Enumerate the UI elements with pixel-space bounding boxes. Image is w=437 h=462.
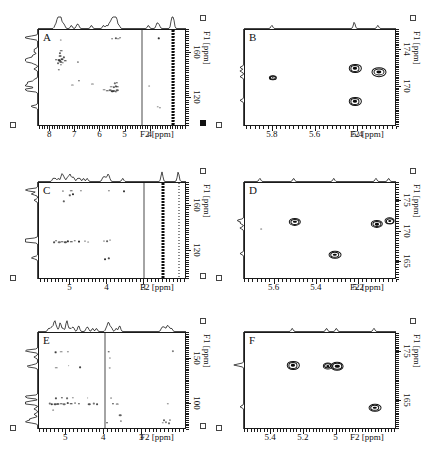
axis-tick <box>396 374 399 375</box>
axis-tick <box>396 383 399 384</box>
axis-tick <box>396 337 399 338</box>
axis-tick <box>257 429 258 432</box>
x-tick-label: 5.4 <box>265 433 276 442</box>
axis-tick <box>396 345 399 346</box>
x-tick-label: 5 <box>333 433 338 442</box>
axis-tick <box>396 405 399 406</box>
contour-peak <box>373 406 377 409</box>
axis-tick <box>391 429 392 432</box>
panel-label-D: D <box>249 185 257 196</box>
axis-tick <box>396 395 399 396</box>
panel-label-E: E <box>43 335 50 346</box>
axis-tick <box>388 429 389 432</box>
axis-tick <box>277 429 278 432</box>
axis-tick <box>396 378 399 379</box>
axis-tick <box>396 422 399 423</box>
panel-label-A: A <box>43 32 51 43</box>
corner-marker <box>216 425 222 431</box>
axis-tick <box>396 358 399 359</box>
nmr-figure: A87654F2 [ppm]120160F1 [ppm]B5.85.65.4F2… <box>0 0 437 462</box>
axis-tick <box>280 429 281 432</box>
axis-tick <box>385 429 386 432</box>
x-axis-title-F: F2 [ppm] <box>350 433 384 442</box>
axis-tick <box>396 354 399 355</box>
axis-tick <box>396 407 399 408</box>
axis-tick <box>396 366 399 367</box>
axis-tick <box>394 429 395 432</box>
axis-tick <box>396 411 399 412</box>
plot-area-F[interactable] <box>244 332 396 429</box>
panel-label-C: C <box>43 185 50 196</box>
axis-tick <box>396 360 399 361</box>
axis-tick <box>396 414 399 415</box>
axis-tick <box>396 424 399 425</box>
projection-trace-f1 <box>231 332 244 429</box>
axis-tick <box>396 370 399 371</box>
axis-tick <box>396 356 399 357</box>
axis-tick <box>313 429 314 432</box>
y-tick-label: 175 <box>402 345 411 359</box>
axis-tick <box>396 381 399 382</box>
axis-tick <box>396 428 399 429</box>
axis-tick <box>396 362 399 363</box>
axis-tick <box>309 429 310 432</box>
axis-tick-major <box>396 400 401 401</box>
axis-tick <box>396 418 399 419</box>
axis-tick <box>396 391 399 392</box>
y-tick-label: 165 <box>402 393 411 407</box>
panel-label-B: B <box>249 32 256 43</box>
axis-tick <box>251 429 252 432</box>
axis-tick <box>396 401 399 402</box>
axis-tick <box>396 368 399 369</box>
axis-tick <box>396 335 399 336</box>
axis-tick <box>396 393 399 394</box>
axis-tick <box>260 429 261 432</box>
axis-tick <box>396 352 399 353</box>
axis-tick <box>396 389 399 390</box>
axis-tick <box>396 348 399 349</box>
axis-tick <box>254 429 255 432</box>
axis-tick <box>396 387 399 388</box>
panel-F: F5.45.25F2 [ppm]165175F1 [ppm] <box>0 0 437 462</box>
y-axis-F: 165175 <box>396 332 410 429</box>
axis-tick <box>339 429 340 432</box>
axis-tick <box>396 397 399 398</box>
axis-tick <box>396 343 399 344</box>
axis-tick <box>396 347 399 348</box>
axis-tick <box>283 429 284 432</box>
axis-tick <box>396 372 399 373</box>
axis-tick <box>247 429 248 432</box>
axis-tick <box>326 429 327 432</box>
axis-tick <box>342 429 343 432</box>
axis-tick <box>290 429 291 432</box>
axis-tick <box>396 416 399 417</box>
contour-peak <box>335 365 339 368</box>
axis-tick <box>345 429 346 432</box>
corner-marker <box>410 318 416 324</box>
axis-tick <box>293 429 294 432</box>
axis-tick <box>286 429 287 432</box>
axis-tick <box>396 426 399 427</box>
axis-tick <box>322 429 323 432</box>
axis-tick <box>396 376 399 377</box>
axis-tick <box>396 380 399 381</box>
y-axis-title-F: F1 [ppm] <box>412 334 421 368</box>
axis-tick <box>396 409 399 410</box>
axis-tick <box>396 403 399 404</box>
axis-tick <box>396 420 399 421</box>
axis-tick <box>396 413 399 414</box>
axis-tick <box>319 429 320 432</box>
axis-tick <box>316 429 317 432</box>
axis-tick <box>329 429 330 432</box>
panel-label-F: F <box>249 335 255 346</box>
axis-tick <box>396 341 399 342</box>
axis-tick <box>396 339 399 340</box>
axis-tick <box>244 429 245 432</box>
axis-tick-major <box>396 351 401 352</box>
x-tick-label: 5.2 <box>297 433 308 442</box>
axis-tick <box>396 364 399 365</box>
axis-tick <box>396 333 399 334</box>
projection-trace-f2 <box>244 319 396 332</box>
axis-tick <box>396 385 399 386</box>
